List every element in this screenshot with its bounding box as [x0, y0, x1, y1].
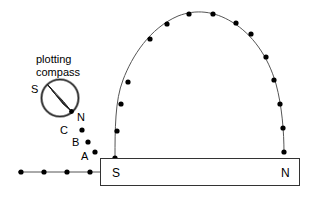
- field-line-arc-marker: [164, 21, 169, 26]
- field-line-arc-marker: [118, 101, 123, 106]
- compass-south-label: S: [31, 83, 38, 95]
- plot-point-c-label: C: [60, 124, 68, 136]
- plotting-compass: [42, 80, 79, 117]
- caption-line-2: compass: [36, 66, 81, 78]
- field-line-straight-marker: [64, 169, 69, 174]
- field-line-arc-marker: [281, 149, 286, 154]
- bar-magnet: S N: [101, 159, 300, 186]
- magnet-south-pole-label: S: [112, 166, 120, 180]
- plot-point-c-marker: [79, 127, 84, 132]
- plot-point-b-marker: [85, 139, 90, 144]
- caption-line-1: plotting: [36, 53, 71, 65]
- field-line-straight-marker: [41, 169, 46, 174]
- field-line-arc-marker: [248, 31, 253, 36]
- field-line-arc-marker: [186, 11, 191, 16]
- compass-needle-tip: [69, 109, 74, 114]
- plot-point-b-label: B: [72, 136, 79, 148]
- field-line-arc-marker: [271, 77, 276, 82]
- plot-point-a-label: A: [81, 150, 89, 162]
- magnet-field-diagram: plotting compass S N C B A: [0, 0, 312, 197]
- field-line-arc-marker: [147, 36, 152, 41]
- bar-magnet-body: [101, 159, 300, 186]
- field-line-arc-marker: [277, 101, 282, 106]
- field-line-straight-marker: [18, 169, 23, 174]
- field-line-arc-marker: [233, 20, 238, 25]
- field-line-arc-marker: [210, 11, 215, 16]
- field-line-arc-marker: [125, 79, 130, 84]
- figure-canvas: plotting compass S N C B A: [0, 0, 312, 197]
- plot-point-a-marker: [92, 149, 97, 154]
- field-line-arc-marker: [280, 125, 285, 130]
- field-line-arc-marker: [114, 128, 119, 133]
- field-line-straight-marker: [87, 169, 92, 174]
- compass-north-label: N: [77, 111, 85, 123]
- field-line-arc-marker: [263, 54, 268, 59]
- magnet-north-pole-label: N: [281, 166, 290, 180]
